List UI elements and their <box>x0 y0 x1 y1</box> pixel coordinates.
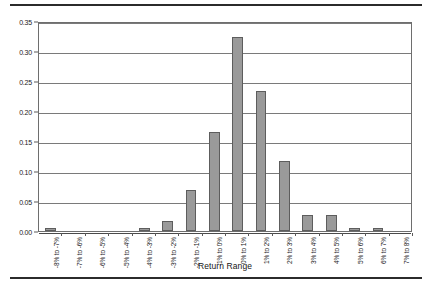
y-tick-label: 0.00 <box>19 229 32 236</box>
x-axis-title: Return Range <box>38 261 412 271</box>
bar <box>349 228 360 231</box>
bar <box>186 190 197 231</box>
x-tick-label: 5% to 6% <box>357 237 364 264</box>
bar <box>256 91 267 231</box>
x-tick-mark <box>412 233 413 236</box>
x-tick-mark <box>272 233 273 236</box>
x-tick-mark <box>108 233 109 236</box>
x-tick-label: 0% to 1% <box>240 237 247 264</box>
y-tick-label: 0.30 <box>19 49 32 56</box>
x-tick-mark <box>319 233 320 236</box>
bar <box>162 221 173 231</box>
bar-series <box>39 23 411 231</box>
x-tick-mark <box>61 233 62 236</box>
x-tick-mark <box>178 233 179 236</box>
y-tick-label: 0.35 <box>19 19 32 26</box>
x-tick-mark <box>155 233 156 236</box>
y-tick-label: 0.05 <box>19 199 32 206</box>
x-tick-mark <box>248 233 249 236</box>
bar <box>373 228 384 231</box>
y-tick-label: 0.15 <box>19 139 32 146</box>
bar <box>139 228 150 231</box>
x-tick-label: 7% to 8% <box>403 237 410 264</box>
figure-canvas: 0.000.050.100.150.200.250.300.35 Frequen… <box>0 0 430 286</box>
bar <box>45 228 56 231</box>
y-tick-label: 0.10 <box>19 169 32 176</box>
x-tick-mark <box>225 233 226 236</box>
x-tick-label: 3% to 4% <box>310 237 317 264</box>
x-tick-label: 1% to 2% <box>263 237 270 264</box>
y-tick-label: 0.20 <box>19 109 32 116</box>
x-tick-mark <box>342 233 343 236</box>
bar <box>302 215 313 231</box>
x-tick-mark <box>295 233 296 236</box>
x-tick-label: 6% to 7% <box>380 237 387 264</box>
x-tick-mark <box>365 233 366 236</box>
plot-area <box>38 22 412 232</box>
x-tick-mark <box>202 233 203 236</box>
bar <box>326 215 337 231</box>
x-tick-mark <box>85 233 86 236</box>
page-rule-top <box>10 4 422 6</box>
y-axis: 0.000.050.100.150.200.250.300.35 <box>0 22 38 232</box>
bar <box>232 37 243 231</box>
x-tick-label: 2% to 3% <box>286 237 293 264</box>
x-tick-label: 4% to 5% <box>333 237 340 264</box>
y-tick-label: 0.25 <box>19 79 32 86</box>
bar <box>279 161 290 231</box>
x-tick-mark <box>389 233 390 236</box>
x-tick-mark <box>132 233 133 236</box>
bar <box>209 132 220 231</box>
page-rule-bottom <box>10 277 422 279</box>
